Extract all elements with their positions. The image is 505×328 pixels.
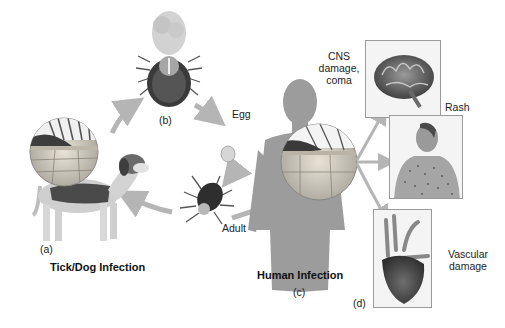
heart-icon [374,210,432,308]
brain-icon [366,41,441,118]
vascular-damage-label: Vascular damage [440,248,496,272]
rash-panel [389,115,463,199]
human-panel-label: (c) [293,286,305,298]
rash-torso-icon [390,116,463,199]
dog-panel-label: (a) [40,243,53,255]
tick-panel-label: (b) [159,114,172,126]
tick-dog-infection-title: Tick/Dog Infection [50,261,145,273]
adult-label: Adult [222,222,246,234]
engorged-tick-icon [136,11,202,107]
outcome-arrows [357,112,390,218]
rash-label: Rash [445,101,470,113]
cns-damage-label: CNS damage, coma [316,50,362,86]
dog-skin-magnifier [30,118,98,186]
brain-panel [365,40,441,118]
adult-tick-icon [180,176,234,224]
human-skin-magnifier [280,124,358,200]
heart-panel [373,209,432,308]
human-infection-title: Human Infection [257,269,343,281]
egg-icon [221,146,235,162]
egg-label: Egg [232,108,251,120]
outcomes-panel-label: (d) [353,297,366,309]
